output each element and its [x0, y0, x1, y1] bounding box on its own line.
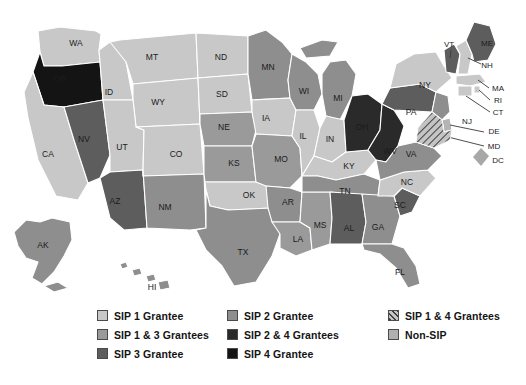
legend-item[interactable]: SIP 2 Grantee	[227, 306, 339, 325]
legend-swatch	[97, 348, 108, 359]
state-label-AK: AK	[37, 240, 49, 250]
state-label-HI: HI	[148, 282, 157, 292]
legend-item[interactable]: SIP 1 & 4 Grantees	[388, 306, 500, 325]
callout-label-NJ: NJ	[462, 117, 472, 126]
state-label-OR: OR	[54, 74, 67, 84]
callout-label-CT: CT	[493, 108, 504, 117]
state-label-WV: WV	[383, 146, 397, 156]
callout-label-MA: MA	[492, 84, 505, 93]
state-NM[interactable]	[143, 170, 206, 230]
legend-swatch	[97, 329, 108, 340]
state-label-MN: MN	[261, 62, 274, 72]
state-label-NC: NC	[401, 177, 413, 187]
legend-label: SIP 2 Grantee	[244, 310, 313, 322]
state-label-FL: FL	[395, 267, 405, 277]
state-label-ND: ND	[215, 52, 227, 62]
legend-column-2: SIP 2 GranteeSIP 2 & 4 GranteesSIP 4 Gra…	[227, 306, 339, 363]
state-label-SD: SD	[216, 89, 228, 99]
state-label-IA: IA	[262, 113, 270, 123]
state-label-MT: MT	[146, 52, 158, 62]
state-label-IN: IN	[326, 134, 335, 144]
legend-item[interactable]: SIP 3 Grantee	[97, 344, 209, 363]
state-label-PA: PA	[406, 107, 417, 117]
callout-label-RI: RI	[494, 96, 502, 105]
us-choropleth-map: WAORCANVIDMTWYUTAZCONMNDSDNEKSOKTXMNIAMO…	[0, 0, 526, 300]
state-WI[interactable]	[288, 54, 322, 110]
state-AK[interactable]	[14, 218, 72, 292]
state-label-NE: NE	[218, 122, 230, 132]
state-label-CA: CA	[42, 149, 54, 159]
legend-label: SIP 4 Grantee	[244, 348, 313, 360]
legend-label: SIP 1 & 4 Grantees	[405, 310, 500, 322]
state-label-LA: LA	[293, 234, 304, 244]
state-label-ID: ID	[105, 87, 114, 97]
state-label-TN: TN	[339, 186, 350, 196]
legend-column-3: SIP 1 & 4 GranteesNon-SIP	[388, 306, 500, 344]
legend-item[interactable]: SIP 4 Grantee	[227, 344, 339, 363]
legend-label: SIP 2 & 4 Grantees	[244, 329, 339, 341]
state-MA[interactable]	[456, 74, 486, 86]
state-label-NY: NY	[419, 80, 431, 90]
state-shapes-group	[14, 22, 496, 292]
map-svg: WAORCANVIDMTWYUTAZCONMNDSDNEKSOKTXMNIAMO…	[0, 0, 526, 300]
state-label-KY: KY	[343, 161, 355, 171]
state-label-IL: IL	[299, 131, 306, 141]
legend-item[interactable]: SIP 2 & 4 Grantees	[227, 325, 339, 344]
state-RI[interactable]	[474, 86, 480, 93]
callout-label-VT: VT	[444, 40, 454, 49]
leader-CT	[466, 96, 490, 112]
state-label-MI: MI	[333, 93, 342, 103]
dc-marker-group[interactable]	[473, 148, 489, 166]
dc-diamond-icon[interactable]	[473, 148, 489, 166]
state-OK[interactable]	[205, 182, 272, 210]
state-FL[interactable]	[362, 244, 420, 288]
callout-label-DC: DC	[492, 156, 504, 165]
legend-swatch	[227, 329, 238, 340]
state-label-WY: WY	[151, 97, 165, 107]
state-IA[interactable]	[252, 98, 296, 136]
legend-swatch	[97, 310, 108, 321]
callout-label-NH: NH	[481, 61, 493, 70]
legend-item[interactable]: SIP 1 Grantee	[97, 306, 209, 325]
state-label-AL: AL	[344, 223, 355, 233]
callout-label-MD: MD	[488, 142, 501, 151]
state-label-WI: WI	[299, 86, 309, 96]
state-label-TX: TX	[238, 247, 249, 257]
state-label-NM: NM	[158, 202, 171, 212]
legend-swatch	[227, 310, 238, 321]
state-label-WA: WA	[69, 38, 83, 48]
state-label-NV: NV	[78, 134, 90, 144]
legend-swatch	[388, 329, 399, 340]
leader-RI	[479, 90, 490, 100]
state-WY[interactable]	[133, 78, 200, 127]
state-label-AZ: AZ	[110, 196, 121, 206]
callout-label-DE: DE	[488, 127, 499, 136]
state-label-GA: GA	[372, 222, 385, 232]
state-label-SC: SC	[394, 200, 406, 210]
state-label-VA: VA	[406, 149, 417, 159]
callout-label-ME: ME	[481, 39, 493, 48]
state-label-KS: KS	[228, 158, 240, 168]
state-HI[interactable]	[120, 262, 170, 290]
legend-item[interactable]: Non-SIP	[388, 325, 500, 344]
state-label-UT: UT	[116, 142, 127, 152]
legend-label: SIP 1 & 3 Grantees	[114, 329, 209, 341]
legend-label: Non-SIP	[405, 329, 447, 341]
legend-label: SIP 1 Grantee	[114, 310, 183, 322]
state-CT[interactable]	[458, 86, 472, 96]
legend-swatch	[388, 310, 399, 321]
legend-item[interactable]: SIP 1 & 3 Grantees	[97, 325, 209, 344]
legend-label: SIP 3 Grantee	[114, 348, 183, 360]
legend-swatch	[227, 348, 238, 359]
state-label-MS: MS	[314, 220, 327, 230]
legend-column-1: SIP 1 GranteeSIP 1 & 3 GranteesSIP 3 Gra…	[97, 306, 209, 363]
state-label-AR: AR	[282, 197, 294, 207]
state-AL[interactable]	[330, 192, 366, 244]
state-label-OK: OK	[243, 190, 256, 200]
state-label-CO: CO	[170, 149, 183, 159]
state-label-OH: OH	[356, 122, 369, 132]
map-legend: SIP 1 GranteeSIP 1 & 3 GranteesSIP 3 Gra…	[0, 306, 526, 385]
state-AZ[interactable]	[100, 170, 147, 230]
state-label-MO: MO	[274, 154, 288, 164]
